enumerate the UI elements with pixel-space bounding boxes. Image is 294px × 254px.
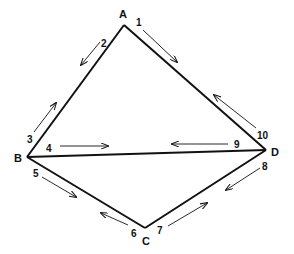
arrow-5-icon <box>42 177 76 197</box>
edge-number-10: 10 <box>257 130 269 141</box>
edge-B-C <box>27 157 145 228</box>
edge-A-B <box>27 25 124 157</box>
edge-number-6: 6 <box>131 228 137 239</box>
edge-B-D <box>27 150 266 157</box>
edge-number-3: 3 <box>27 134 33 145</box>
arrow-3-icon <box>34 103 56 132</box>
vertex-label-c: C <box>142 235 150 247</box>
edge-C-D <box>145 150 266 228</box>
edge-number-5: 5 <box>33 168 39 179</box>
vertex-label-d: D <box>271 146 279 158</box>
vertex-label-b: B <box>14 152 22 164</box>
edge-number-8: 8 <box>262 161 268 172</box>
diagram-canvas: A B C D 1 2 3 4 5 6 7 8 9 10 <box>0 0 294 254</box>
edge-number-1: 1 <box>136 17 142 28</box>
edge-number-2: 2 <box>101 38 107 49</box>
arrow-7-icon <box>168 203 207 226</box>
vertex-label-a: A <box>119 8 127 20</box>
edge-number-9: 9 <box>234 139 240 150</box>
edge-number-7: 7 <box>157 225 163 236</box>
graph-diagram: A B C D 1 2 3 4 5 6 7 8 9 10 <box>0 0 294 254</box>
edge-A-D <box>124 25 266 150</box>
arrow-8-icon <box>226 168 260 190</box>
edge-number-4: 4 <box>46 143 52 154</box>
